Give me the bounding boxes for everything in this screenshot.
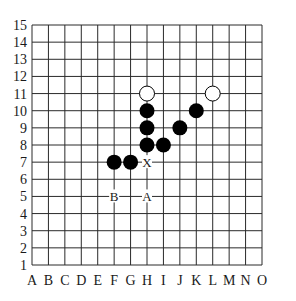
row-label: 11 <box>14 87 27 102</box>
column-labels: ABCDEFGHIJKLMNO <box>27 273 267 288</box>
black-stone[interactable] <box>189 103 204 118</box>
marker-x: X <box>142 155 152 170</box>
row-label: 9 <box>20 121 27 136</box>
white-stone[interactable] <box>140 86 155 101</box>
black-stone[interactable] <box>156 138 171 153</box>
column-label: L <box>208 273 217 288</box>
column-label: F <box>110 273 118 288</box>
column-label: G <box>126 273 136 288</box>
row-label: 15 <box>13 18 27 33</box>
column-label: C <box>60 273 69 288</box>
row-label: 4 <box>20 207 27 222</box>
row-label: 8 <box>20 138 27 153</box>
black-stone[interactable] <box>140 120 155 135</box>
row-label: 10 <box>13 104 27 119</box>
column-label: O <box>257 273 267 288</box>
row-label: 2 <box>20 241 27 256</box>
column-label: D <box>76 273 86 288</box>
board-canvas: 123456789101112131415 ABCDEFGHIJKLMNO XB… <box>0 0 296 301</box>
column-label: H <box>142 273 152 288</box>
row-label: 7 <box>20 155 27 170</box>
black-stone[interactable] <box>140 103 155 118</box>
white-stone[interactable] <box>205 86 220 101</box>
row-label: 12 <box>13 69 27 84</box>
column-label: J <box>177 273 183 288</box>
black-stone[interactable] <box>123 155 138 170</box>
column-label: K <box>191 273 201 288</box>
column-label: M <box>223 273 236 288</box>
row-label: 3 <box>20 224 27 239</box>
marker-a: A <box>142 189 152 204</box>
column-label: N <box>241 273 251 288</box>
row-label: 13 <box>13 52 27 67</box>
black-stone[interactable] <box>107 155 122 170</box>
row-label: 14 <box>13 35 27 50</box>
black-stone[interactable] <box>172 120 187 135</box>
black-stone[interactable] <box>140 138 155 153</box>
column-label: E <box>93 273 102 288</box>
column-label: I <box>161 273 166 288</box>
row-label: 1 <box>20 258 27 273</box>
row-label: 6 <box>20 172 27 187</box>
row-label: 5 <box>20 189 27 204</box>
column-label: A <box>27 273 38 288</box>
gomoku-board: 123456789101112131415 ABCDEFGHIJKLMNO XB… <box>0 0 296 301</box>
row-labels: 123456789101112131415 <box>13 18 27 273</box>
column-label: B <box>44 273 53 288</box>
marker-b: B <box>110 189 119 204</box>
